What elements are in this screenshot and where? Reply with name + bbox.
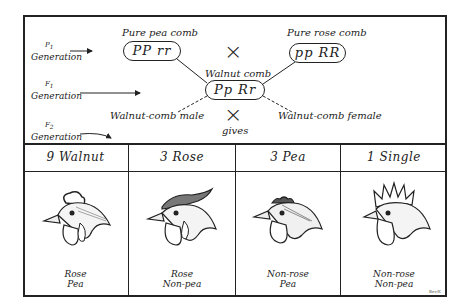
- artist-signature: Bev/K: [429, 289, 441, 294]
- gives-label: gives: [222, 125, 248, 136]
- header-single: 1 Single: [341, 150, 447, 164]
- walnut-comb-title: Walnut comb: [205, 68, 271, 79]
- generation-p1-label: P1 Generation: [31, 40, 82, 62]
- cross-symbol-f1: ×: [224, 104, 242, 126]
- pea-phenotype: Non-rose Pea: [236, 269, 340, 289]
- pure-pea-title: Pure pea comb: [122, 27, 198, 38]
- single-phenotype: Non-rose Non-pea: [341, 269, 447, 289]
- genotype-pprr: PP rr: [123, 41, 181, 61]
- header-pea: 3 Pea: [236, 150, 340, 164]
- f2-results-table: 9 Walnut Rose Pea 3 Rose Rose Non-pea: [23, 143, 447, 297]
- header-walnut: 9 Walnut: [23, 150, 128, 164]
- generation-f2-label: F2 Generation: [31, 120, 82, 142]
- column-pea: 3 Pea Non-rose Pea: [236, 143, 341, 297]
- pea-comb-rooster-icon: [248, 185, 328, 265]
- generation-f1-label: F1 Generation: [31, 79, 82, 101]
- header-rose: 3 Rose: [129, 150, 235, 164]
- column-walnut: 9 Walnut Rose Pea: [23, 143, 129, 297]
- walnut-phenotype: Rose Pea: [23, 269, 128, 289]
- rose-comb-rooster-icon: [142, 185, 222, 265]
- walnut-male-label: Walnut-comb male: [110, 110, 204, 121]
- genotype-f1: Pp Rr: [205, 80, 265, 100]
- genotype-pprr-rose: pp RR: [289, 43, 346, 63]
- cross-symbol-p1: ×: [224, 41, 242, 63]
- single-comb-rooster-icon: [354, 179, 434, 259]
- rose-phenotype: Rose Non-pea: [129, 269, 235, 289]
- column-rose: 3 Rose Rose Non-pea: [129, 143, 236, 297]
- walnut-comb-rooster-icon: [36, 185, 116, 265]
- walnut-female-label: Walnut-comb female: [278, 110, 382, 121]
- column-single: 1 Single Non-rose Non-pea Bev/K: [341, 143, 447, 297]
- pure-rose-title: Pure rose comb: [287, 27, 367, 38]
